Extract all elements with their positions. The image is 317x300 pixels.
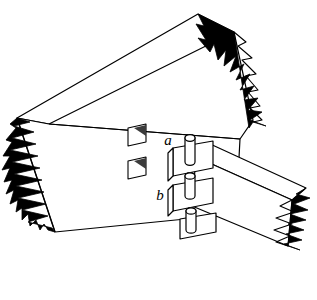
dowel-pin-upper-cap xyxy=(185,135,195,142)
label-a: a xyxy=(164,132,172,148)
diagram-geometry: a b xyxy=(0,0,317,300)
mortise-hole-lower xyxy=(128,157,146,179)
tenon-block-middle-side xyxy=(168,185,173,216)
mortise-hole-upper xyxy=(128,124,146,146)
dowel-pin-middle xyxy=(185,173,195,199)
label-b: b xyxy=(156,187,164,203)
dowel-pin-middle-cap xyxy=(185,173,195,179)
tenon-block-upper-side xyxy=(168,148,173,181)
dowel-pin-lower xyxy=(186,208,196,233)
figure-container: a b xyxy=(0,0,317,300)
dowel-pin-lower-cap xyxy=(186,208,196,214)
joint-diagram: a b xyxy=(0,0,317,300)
dowel-pin-upper xyxy=(185,135,195,166)
